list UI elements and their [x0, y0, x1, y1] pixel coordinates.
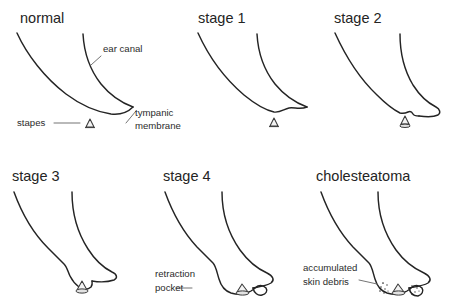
ear-canal-lower-wall-stage-3: [14, 192, 92, 289]
stapes-icon-stage-3: [76, 281, 88, 293]
panel-stage-4: stage 4 retraction pocket: [155, 168, 273, 295]
ear-canal-upper-wall-stage-3: [72, 192, 116, 282]
panel-title-stage-4: stage 4: [163, 168, 211, 184]
panel-stage-2: stage 2: [334, 10, 440, 128]
panel-normal: normal ear canal stapes tympanic membran…: [17, 10, 181, 131]
ear-canal-upper-wall-stage-4: [222, 192, 273, 288]
leader-accumulated-skin-debris: [359, 280, 377, 284]
annotation-retraction-pocket-line1: retraction: [155, 268, 195, 279]
ear-canal-upper-wall-stage-2: [400, 34, 440, 117]
annotation-retraction-pocket-line2: pocket: [155, 282, 184, 293]
panel-stage-3: stage 3: [12, 168, 116, 293]
panel-title-stage-1: stage 1: [198, 10, 246, 26]
annotation-accumulated-skin-debris-line1: accumulated: [303, 262, 357, 273]
annotation-stapes: stapes: [17, 117, 45, 128]
ear-canal-lower-wall-stage-2: [335, 33, 419, 116]
panel-title-stage-3: stage 3: [12, 168, 60, 184]
annotation-ear-canal: ear canal: [103, 43, 142, 54]
ear-canal-upper-wall-stage-1: [257, 34, 307, 107]
panel-title-stage-2: stage 2: [334, 10, 382, 26]
panel-title-cholesteatoma: cholesteatoma: [316, 168, 411, 184]
annotation-tympanic-membrane-line2: membrane: [135, 120, 181, 131]
stapes-icon-stage-4: [236, 284, 249, 295]
panel-title-normal: normal: [20, 10, 64, 26]
stapes-icon-cholesteatoma: [392, 284, 405, 295]
stapes-icon-normal: [85, 119, 95, 128]
ear-canal-lower-wall-stage-4: [165, 192, 267, 295]
stapes-icon-stage-1: [269, 118, 279, 127]
ear-canal-lower-wall-stage-1: [198, 33, 307, 112]
annotation-tympanic-membrane-line1: tympanic: [135, 107, 174, 118]
ear-retraction-stages-figure: normal ear canal stapes tympanic membran…: [0, 0, 454, 305]
annotation-accumulated-skin-debris-line2: skin debris: [303, 276, 349, 287]
leader-ear-canal: [91, 56, 101, 65]
ear-canal-upper-wall-cholesteatoma: [378, 192, 430, 288]
panel-stage-1: stage 1: [198, 10, 307, 127]
stapes-icon-stage-2: [400, 116, 410, 128]
panel-cholesteatoma: cholesteatoma accumulated sk: [303, 168, 430, 296]
